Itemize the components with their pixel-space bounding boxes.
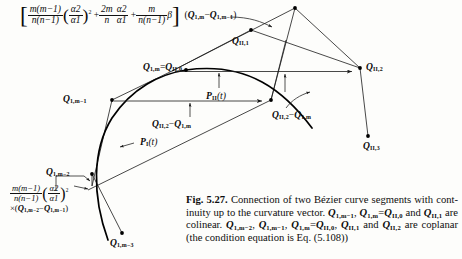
bracket-open: [ [20, 8, 28, 22]
caption-and-1: and [406, 207, 421, 218]
label-base: Q [63, 93, 70, 104]
fraction-numerator: α2 [115, 5, 129, 15]
fraction-denominator: n [99, 15, 115, 26]
label-subscript: II,3 [370, 145, 380, 151]
figure-page: [m(m−1)n(n−1)(α2α1)2 +2mnα2α1 +mn(n−1)β]… [0, 0, 462, 259]
fraction-numerator: α2 [48, 184, 61, 193]
label-base: Q [110, 237, 117, 248]
line-QII1-to-QII2 [251, 30, 360, 68]
dot-Q1m-QII0 [184, 68, 188, 72]
label-subscript: 1,m−3 [117, 242, 134, 248]
caption-q8: Q [316, 219, 324, 230]
label-base1: Q [152, 118, 159, 129]
fraction-alpha2-over-alpha1: α2α1 [69, 5, 83, 26]
caption-sentence-1: Connection of two Bézier curve segments … [231, 194, 458, 205]
formula-bottom-left: m(m−1)n(n−1)(α2α1)2 ×(Q1,m−2−Q1,m−1) [10, 184, 68, 214]
caption-figure-number: Fig. 5.27. [186, 194, 228, 205]
caption-q5: Q [226, 219, 234, 230]
formula-top-left: [m(m−1)n(n−1)(α2α1)2 +2mnα2α1 +mn(n−1)β]… [20, 5, 236, 26]
caption-q6-sub: 1,m−1 [266, 224, 284, 231]
label-base1: Q [272, 109, 279, 120]
leader-formula-bottom-arrow [84, 176, 90, 181]
label-Q1m-1: Q1,m−1 [63, 94, 87, 105]
caption-sentence-2a: inuity up to the curvature vector. [186, 207, 325, 218]
label-Q1m-3: Q1,m−3 [110, 238, 134, 249]
caption-q4-sub: II,1 [431, 211, 442, 218]
vector-paren-close: ) [65, 203, 68, 213]
dot-apex [293, 6, 297, 10]
formula-bottom-line2: ×(Q1,m−2−Q1,m−1) [10, 204, 68, 214]
label-sub1: II,2 [159, 123, 169, 129]
label-base: Q [143, 61, 150, 72]
label-argument: (t) [217, 90, 226, 101]
leader-formula-bottom-arrow2 [74, 186, 88, 189]
vector-Q1-subscript: 1,m−2 [24, 207, 39, 213]
label-QII3: QII,3 [363, 141, 380, 152]
label-vector-QII2-minus-Q1m-lower: QII,2−Q1,m [152, 119, 191, 130]
formula-bottom-line1: m(m−1)n(n−1)(α2α1)2 [10, 184, 68, 203]
fraction-denominator: n(n−1) [10, 193, 42, 203]
line-apex-to-QII2 [295, 8, 360, 68]
label-base: Q [232, 35, 239, 46]
caption-q8-sub: II,0 [324, 224, 335, 231]
fraction-numerator: m [136, 5, 167, 15]
vector-paren-close: ) [233, 10, 236, 20]
fraction-denominator: α1 [69, 15, 83, 26]
measurement-vectors [114, 72, 352, 102]
exponent-2: 2 [66, 187, 69, 193]
caption-q5-sub: 1,m−2 [234, 224, 252, 231]
caption-q3: Q [384, 207, 392, 218]
curve-segment-I [96, 70, 186, 240]
fraction-m-over-n: m(m−1)n(n−1) [28, 5, 63, 26]
label-curve-PI: PI(t) [140, 137, 157, 148]
vector-Q2: Q [210, 10, 217, 20]
caption-q9: Q [341, 219, 349, 230]
caption-q1: Q [328, 207, 336, 218]
label-subscript: 1,m−2 [53, 171, 70, 177]
caption-q7: Q [291, 219, 299, 230]
caption-and-2: and [363, 219, 378, 230]
fraction-numerator: α2 [69, 5, 83, 15]
label-subscript: II,2 [373, 66, 383, 72]
label-base: Q [366, 61, 373, 72]
caption-q10: Q [382, 219, 390, 230]
vector-expression: (Q1,m−Q1,m−1) [184, 10, 236, 20]
label-vector-QII2-minus-Q1m-diagonal: QII,2−Q1,m [272, 110, 311, 121]
caption-q3-sub: II,0 [392, 211, 403, 218]
label-curve-PII: PII(t) [206, 91, 226, 102]
fraction-alpha2-over-alpha1: α2α1 [48, 184, 61, 203]
vector-Q1-subscript: 1,m [195, 14, 205, 20]
dot-Q1m-1 [110, 98, 114, 102]
label-Q1m-2: Q1,m−2 [46, 167, 70, 178]
line-QII2-to-QII3 [360, 68, 368, 136]
label-sub2: 1,m [301, 114, 311, 120]
label-subscript: 1,m [150, 66, 160, 72]
label-base: Q [363, 140, 370, 151]
bracket-close: ] [172, 8, 180, 22]
label-sub1: II,2 [279, 114, 289, 120]
leader-PI-to-curve [120, 143, 134, 147]
fraction-alpha2-over-alpha1-b: α2α1 [115, 5, 129, 26]
exponent-2: 2 [88, 9, 91, 15]
dot-Q1m-3 [120, 231, 124, 235]
fraction-m-over-nn1: mn(n−1) [136, 5, 167, 26]
label-QII2: QII,2 [366, 62, 383, 73]
label-subscript: 1,m−1 [70, 98, 87, 104]
fraction-denominator: n(n−1) [136, 15, 167, 26]
label-base: Q [46, 166, 53, 177]
vector-Q1: Q [188, 10, 195, 20]
label-subscript2: II,0 [172, 66, 182, 72]
fraction-numerator: m(m−1) [28, 5, 63, 15]
fraction-denominator: n(n−1) [28, 15, 63, 26]
vector-Q2-subscript: 1,m−1 [50, 207, 65, 213]
dot-lower-node [269, 98, 273, 102]
fraction-numerator: 2m [99, 5, 115, 15]
caption-comma-1: , [354, 207, 357, 218]
leader-to-curveII [286, 92, 310, 108]
figure-caption: Fig. 5.27. Connection of two Bézier curv… [186, 194, 458, 244]
dot-Q1m-2 [90, 172, 94, 176]
label-sub2: 1,m [181, 123, 191, 129]
dot-QII2 [358, 66, 362, 70]
dot-QII3 [366, 134, 370, 138]
line-Q1m1-to-Q1m2 [92, 100, 112, 186]
